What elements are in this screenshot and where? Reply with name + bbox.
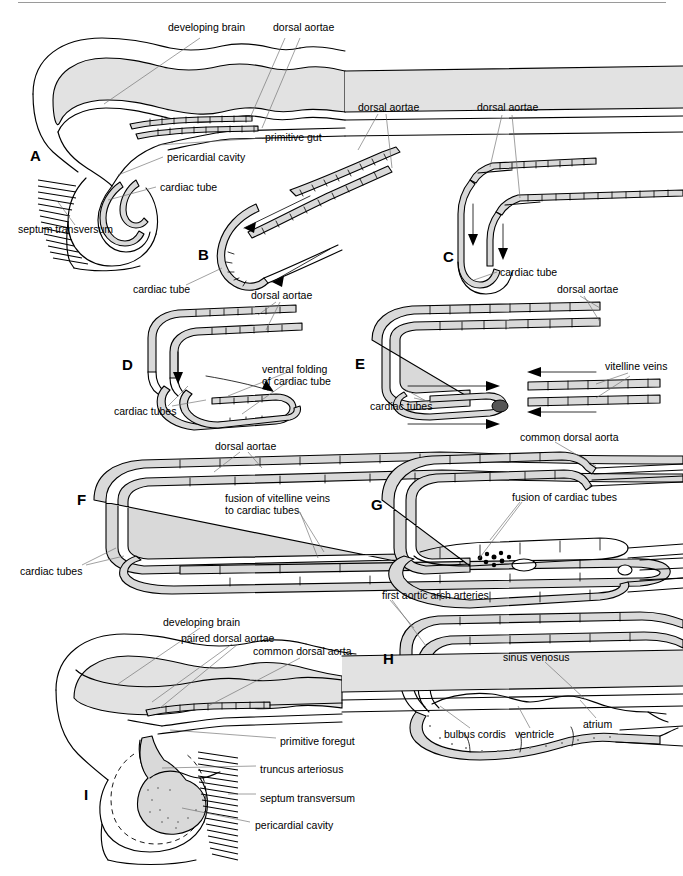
- label-cardiac-tube-a: cardiac tube: [160, 181, 217, 193]
- label-pericardial-cavity-i: pericardial cavity: [255, 819, 333, 831]
- panel-a-art: [33, 38, 683, 271]
- panel-b-art: [217, 147, 400, 290]
- label-first-aortic-arch-arteries-h: first aortic arch arteries: [382, 589, 489, 601]
- label-cardiac-tubes-d: cardiac tubes: [114, 405, 176, 417]
- top-divider-rule: [18, 2, 666, 3]
- panel-letter-h: H: [383, 651, 394, 666]
- label-developing-brain-i: developing brain: [163, 616, 240, 628]
- panel-letter-f: F: [77, 492, 86, 507]
- panel-letter-a: A: [30, 148, 41, 163]
- label-ventricle-h: ventricle: [515, 728, 554, 740]
- panel-letter-d: D: [122, 357, 133, 372]
- label-septum-transversum-i: septum transversum: [260, 792, 355, 804]
- label-primitive-foregut-i: primitive foregut: [280, 735, 355, 747]
- label-cardiac-tubes-f: cardiac tubes: [20, 565, 82, 577]
- label-cardiac-tube-b: cardiac tube: [133, 283, 190, 295]
- label-dorsal-aortae-f: dorsal aortae: [215, 440, 276, 452]
- label-primitive-gut-a: primitive gut: [265, 131, 322, 143]
- label-paired-dorsal-aortae-i: paired dorsal aortae: [181, 632, 274, 644]
- panel-letter-i: I: [84, 787, 88, 802]
- label-truncus-arteriosus-i: truncus arteriosus: [260, 763, 343, 775]
- panel-letter-c: C: [443, 249, 454, 264]
- label-bulbus-cordis-h: bulbus cordis: [444, 728, 506, 740]
- label-dorsal-aortae-d: dorsal aortae: [251, 289, 312, 301]
- label-dorsal-aortae-e: dorsal aortae: [557, 283, 618, 295]
- panel-letter-b: B: [198, 247, 209, 262]
- label-sinus-venosus-h: sinus venosus: [503, 651, 570, 663]
- panel-f-art: [94, 452, 683, 594]
- label-vitelline-veins-e: vitelline veins: [605, 360, 667, 372]
- label-dorsal-aortae-a: dorsal aortae: [273, 21, 334, 33]
- label-common-dorsal-aorta-i: common dorsal aorta: [253, 645, 352, 657]
- panel-letter-e: E: [355, 356, 365, 371]
- label-atrium-h: atrium: [583, 718, 612, 730]
- label-ventral-folding-d: ventral folding of cardiac tube: [262, 363, 331, 388]
- label-fusion-vitelline-veins-f: fusion of vitelline veins to cardiac tub…: [225, 492, 330, 517]
- label-septum-transversum-a: septum transversum: [18, 223, 113, 235]
- figure-canvas: A B C D E F G H I developing brain dorsa…: [0, 0, 683, 876]
- panel-g-art: [382, 452, 683, 608]
- label-common-dorsal-aorta-g: common dorsal aorta: [520, 431, 619, 443]
- label-cardiac-tubes-e: cardiac tubes: [370, 400, 432, 412]
- leader-lines: [58, 38, 630, 822]
- label-pericardial-cavity-a: pericardial cavity: [167, 151, 245, 163]
- label-cardiac-tube-c: cardiac tube: [500, 266, 557, 278]
- label-fusion-cardiac-tubes-g: fusion of cardiac tubes: [512, 491, 617, 503]
- panel-i-art: [56, 634, 683, 865]
- panel-letter-g: G: [371, 497, 383, 512]
- label-dorsal-aortae-b: dorsal aortae: [358, 101, 419, 113]
- label-developing-brain-a: developing brain: [168, 21, 245, 33]
- panel-c-art: [458, 158, 683, 294]
- label-dorsal-aortae-c: dorsal aortae: [477, 101, 538, 113]
